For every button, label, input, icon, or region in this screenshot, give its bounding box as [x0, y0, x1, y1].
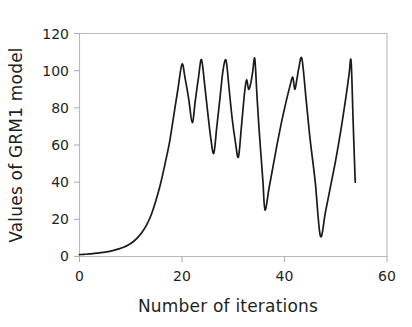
- x-tick-marks: [80, 257, 388, 263]
- chart-canvas: 0 20 40 60 80 100 120 0 20 40 60 Number …: [0, 0, 412, 327]
- y-tick-label-60: 60: [51, 137, 69, 153]
- x-tick-label-20: 20: [173, 268, 191, 284]
- y-axis-title: Values of GRM1 model: [6, 47, 26, 243]
- y-tick-label-0: 0: [60, 248, 69, 264]
- y-tick-label-120: 120: [42, 26, 69, 42]
- x-tick-label-0: 0: [75, 268, 84, 284]
- y-tick-label-20: 20: [51, 211, 69, 227]
- y-tick-label-80: 80: [51, 100, 69, 116]
- y-tick-label-40: 40: [51, 174, 69, 190]
- plot-frame: [80, 34, 388, 257]
- y-tick-label-100: 100: [42, 63, 69, 79]
- x-tick-label-60: 60: [378, 268, 396, 284]
- y-tick-marks: [74, 34, 80, 257]
- chart-figure: 0 20 40 60 80 100 120 0 20 40 60 Number …: [0, 0, 412, 327]
- x-axis-title: Number of iterations: [138, 296, 318, 316]
- x-tick-label-40: 40: [276, 268, 294, 284]
- data-series-line: [80, 57, 356, 254]
